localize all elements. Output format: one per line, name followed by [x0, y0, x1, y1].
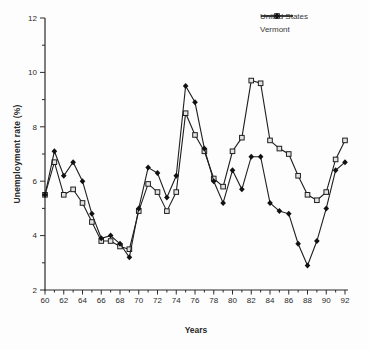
vermont-data-point-marker [89, 211, 95, 217]
us-data-point-marker [193, 133, 198, 138]
unemployment-line-chart: 2468101260626466687072747678808284868890… [0, 0, 369, 350]
us-data-point-marker [324, 190, 329, 195]
tick-label: 84 [266, 296, 275, 305]
us-data-point-marker [174, 190, 179, 195]
vermont-data-point-marker [286, 211, 292, 217]
vermont-data-point-marker [145, 165, 151, 171]
us-data-point-marker [108, 239, 113, 244]
tick-label: 62 [59, 296, 68, 305]
vermont-data-point-marker [80, 178, 86, 184]
vermont-data-point-marker [239, 186, 245, 192]
us-data-point-marker [155, 190, 160, 195]
us-data-point-marker [146, 182, 151, 187]
tick-label: 90 [322, 296, 331, 305]
us-data-point-marker [343, 138, 348, 143]
legend-entry-vermont: Vermont [260, 24, 308, 35]
tick-label: 74 [172, 296, 181, 305]
vermont-data-point-marker [230, 167, 236, 173]
vermont-data-point-marker [192, 99, 198, 105]
tick-label: 10 [28, 68, 37, 77]
vermont-data-point-marker [305, 263, 311, 269]
vermont-data-point-marker [295, 241, 301, 247]
tick-label: 78 [209, 296, 218, 305]
us-data-point-marker [165, 209, 170, 214]
us-data-point-marker [230, 149, 235, 154]
tick-label: 76 [191, 296, 200, 305]
us-data-point-marker [240, 135, 245, 140]
vermont-data-point-marker [248, 154, 254, 160]
us-data-point-marker [315, 198, 320, 203]
us-data-point-marker [71, 187, 76, 192]
us-data-point-marker [90, 220, 95, 225]
us-data-point-marker [61, 193, 66, 198]
vermont-data-point-marker [220, 200, 226, 206]
vermont-data-point-marker [274, 13, 280, 19]
vermont-data-point-marker [314, 238, 320, 244]
tick-label: 60 [41, 296, 50, 305]
tick-label: 88 [303, 296, 312, 305]
vermont-data-point-marker [164, 195, 170, 201]
vermont-data-point-marker [52, 148, 58, 154]
us-data-point-marker [296, 173, 301, 178]
vermont-data-point-marker [155, 170, 161, 176]
legend-label-vermont: Vermont [260, 25, 290, 34]
tick-label: 80 [228, 296, 237, 305]
tick-label: 4 [33, 231, 38, 240]
axes: 2468101260626466687072747678808284868890… [28, 14, 350, 305]
us-data-point-marker [333, 157, 338, 162]
us-data-point-marker [221, 184, 226, 189]
us-data-point-marker [258, 81, 263, 86]
plot-area: 2468101260626466687072747678808284868890… [0, 0, 369, 350]
tick-label: 64 [78, 296, 87, 305]
tick-label: 8 [33, 123, 38, 132]
us-data-point-marker [80, 201, 85, 206]
tick-label: 68 [116, 296, 125, 305]
tick-label: 92 [341, 296, 350, 305]
us-data-point-marker [286, 152, 291, 157]
us-data-point-marker [277, 146, 282, 151]
legend: United States Vermont [260, 11, 308, 35]
tick-label: 72 [153, 296, 162, 305]
tick-label: 12 [28, 14, 37, 23]
tick-label: 86 [284, 296, 293, 305]
tick-label: 82 [247, 296, 256, 305]
us-data-point-marker [268, 138, 273, 143]
us-data-point-marker [183, 111, 188, 116]
vermont-data-point-marker [258, 154, 264, 160]
vermont-data-point-marker [183, 83, 189, 89]
us-data-point-marker [249, 78, 254, 83]
x-axis-label: Years [185, 325, 208, 335]
vermont-filled-diamond-legend-marker [260, 11, 294, 21]
us-data-point-marker [305, 193, 310, 198]
tick-label: 66 [97, 296, 106, 305]
tick-label: 70 [134, 296, 143, 305]
vermont-series [42, 83, 348, 269]
y-axis-label: Unemployment rate (%) [12, 104, 22, 203]
tick-label: 2 [33, 286, 38, 295]
tick-label: 6 [33, 177, 38, 186]
vermont-data-point-marker [323, 205, 329, 211]
